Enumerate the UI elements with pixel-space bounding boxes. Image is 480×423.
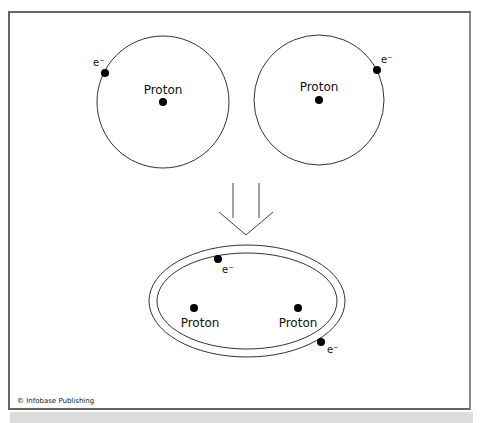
atom-left: Proton e⁻ [93,36,229,168]
molecule: Proton Proton e⁻ e⁻ [149,245,345,357]
proton-mol-left-dot [190,304,198,312]
electron-mol-top-label: e⁻ [222,264,233,275]
molecular-orbit-outer [149,245,345,357]
electron-mol-bottom-dot [317,338,325,346]
proton-right-label: Proton [300,80,339,94]
proton-mol-right-label: Proton [279,316,318,330]
electron-left-dot [101,69,109,77]
copyright-credit: © Infobase Publishing [17,397,94,405]
electron-right-dot [373,66,381,74]
electron-mol-top-dot [214,255,222,263]
proton-left-label: Proton [144,83,183,97]
atom-right: Proton e⁻ [254,35,392,165]
molecular-orbit-inner [157,253,337,349]
proton-mol-left-label: Proton [181,316,220,330]
electron-left-label: e⁻ [93,57,104,68]
down-arrow-icon [219,183,273,235]
proton-mol-right-dot [294,304,302,312]
proton-right-dot [315,96,323,104]
hydrogen-molecule-diagram: Proton e⁻ Proton e⁻ Proton Proton e⁻ e⁻ [0,0,480,423]
electron-right-label: e⁻ [381,54,392,65]
electron-mol-bottom-label: e⁻ [327,344,338,355]
proton-left-dot [159,98,167,106]
